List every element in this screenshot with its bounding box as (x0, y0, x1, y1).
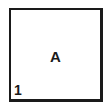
box-number: 1 (14, 82, 22, 98)
box-label: A (11, 48, 100, 65)
labeled-box: A 1 (9, 8, 103, 102)
